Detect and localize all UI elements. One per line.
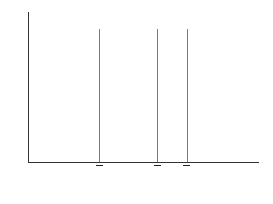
mean-bar-3 <box>183 165 190 166</box>
diagram-canvas <box>0 0 273 204</box>
mean-bar-1 <box>96 165 103 166</box>
mean-bar-2 <box>154 165 161 166</box>
